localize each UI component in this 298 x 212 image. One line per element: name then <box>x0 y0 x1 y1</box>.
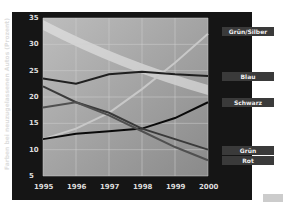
y-tick: 25 <box>29 67 39 75</box>
x-tick: 1996 <box>67 183 86 191</box>
y-tick: 5 <box>29 172 34 180</box>
legend-item: Grün/Silber <box>222 27 274 36</box>
x-tick: 2000 <box>199 183 218 191</box>
y-axis-label: Farben bei neuzugelassenen Autos (Prozen… <box>3 18 10 170</box>
x-tick: 1999 <box>166 183 185 191</box>
legend-item: Blau <box>222 72 274 81</box>
y-tick: 35 <box>29 14 39 22</box>
logo <box>263 194 283 202</box>
y-tick: 30 <box>29 40 39 48</box>
x-tick: 1998 <box>133 183 152 191</box>
y-tick: 10 <box>29 146 39 154</box>
legend-item: Rot <box>222 156 274 165</box>
y-tick: 20 <box>29 93 39 101</box>
legend-item: Grün <box>222 146 274 155</box>
legend-item: Schwarz <box>222 98 274 107</box>
x-tick: 1995 <box>34 183 53 191</box>
x-tick: 1997 <box>100 183 119 191</box>
y-tick: 15 <box>29 119 39 127</box>
